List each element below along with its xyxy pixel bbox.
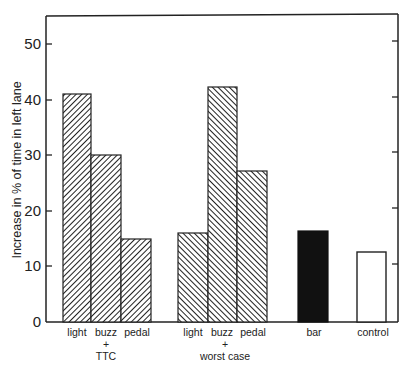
bar-buzz-ttc xyxy=(91,155,121,322)
bar-buzz-worst-case xyxy=(208,87,237,322)
bar-group-worst-case xyxy=(178,87,267,322)
y-tick-30: 30 xyxy=(24,146,41,163)
label-plus-worst-case: + xyxy=(222,338,228,350)
y-tick-10: 10 xyxy=(24,257,41,274)
y-tick-labels: 0 10 20 30 40 50 xyxy=(24,35,41,330)
y-tick-0: 0 xyxy=(33,313,41,330)
bar-bar xyxy=(298,231,328,322)
label-buzz-ttc: buzz xyxy=(95,326,117,338)
label-bar: bar xyxy=(306,326,322,338)
bar-group-ttc xyxy=(63,94,151,322)
y-tick-20: 20 xyxy=(24,202,41,219)
label-pedal-ttc: pedal xyxy=(124,326,150,338)
label-control: control xyxy=(357,326,389,338)
label-light-worst-case: light xyxy=(183,326,202,338)
bar-pedal-ttc xyxy=(121,239,151,322)
y-axis-label: Increase in % of time in left lane xyxy=(10,81,24,258)
label-plus-ttc: + xyxy=(103,338,109,350)
y-axis-right-ticks xyxy=(392,41,398,264)
bar-light-ttc xyxy=(63,94,91,322)
bar-control xyxy=(357,252,386,322)
label-pedal-worst-case: pedal xyxy=(240,326,266,338)
label-buzz-worst-case: buzz xyxy=(211,326,233,338)
y-axis-ticks xyxy=(46,44,52,266)
bar-pedal-worst-case xyxy=(237,171,267,322)
label-group-ttc: TTC xyxy=(96,350,117,362)
label-group-worst-case: worst case xyxy=(199,350,250,362)
bar-chart: 0 10 20 30 40 50 Increase in % of time i… xyxy=(0,0,413,369)
x-category-labels: light buzz pedal + TTC light buzz pedal … xyxy=(67,326,388,362)
bar-light-worst-case xyxy=(178,233,208,322)
y-tick-40: 40 xyxy=(24,91,41,108)
y-tick-50: 50 xyxy=(24,35,41,52)
label-light-ttc: light xyxy=(67,326,86,338)
